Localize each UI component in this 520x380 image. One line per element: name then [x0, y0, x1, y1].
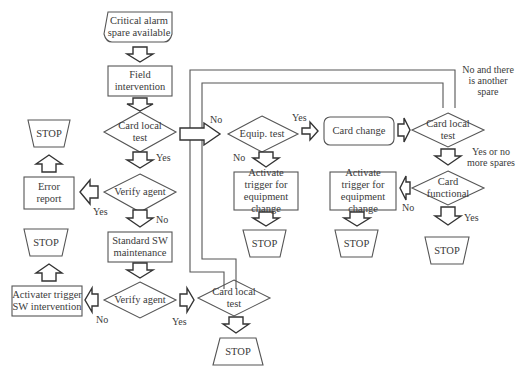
equip-test-label: Equip. test — [238, 120, 286, 148]
standard-sw-label: Standard SW maintenance — [108, 232, 172, 262]
arrow-functional-stop — [435, 207, 461, 225]
stop-bottom-label: STOP — [216, 338, 260, 365]
edge-label-verify2-yes: Yes — [172, 316, 187, 327]
edge-label-functional-no: No — [402, 202, 414, 213]
field-intervention-box-label: Field intervention — [108, 66, 172, 96]
arrow-stdsw-verify2 — [127, 263, 153, 278]
arrow-verify2-actsw — [85, 288, 98, 312]
stop-error-label: STOP — [28, 120, 70, 147]
arrow-error-stop — [36, 155, 62, 172]
arrow-verify1-error — [80, 180, 98, 204]
activater-sw-label: Activater trigger SW intervention — [12, 286, 82, 316]
edge-label-equip-yes: Yes — [292, 112, 307, 123]
edge-label-card1-no: No — [210, 114, 222, 125]
stop-functional-label: STOP — [425, 237, 469, 264]
card-test-2-label: Card local test — [420, 116, 476, 144]
edge-label-card2-loop: No and there is another spare — [458, 64, 518, 97]
arrow-verify1-stdsw — [127, 210, 153, 227]
edge-label-equip-no: No — [233, 152, 245, 163]
edge-label-verify1-no: No — [156, 214, 168, 225]
verify-agent-1-label: Verify agent — [112, 178, 168, 206]
arrow-card1-verify1 — [127, 152, 153, 168]
stop-equip-2-label: STOP — [335, 230, 378, 257]
arrow-card3-stop — [223, 317, 249, 333]
card-test-1-label: Card local test — [112, 118, 168, 146]
arrow-verify2-card3 — [180, 288, 194, 312]
start-terminal: Critical alarm spare available — [104, 12, 174, 42]
arrow-cardchange-card2 — [398, 118, 410, 142]
arrow-equip-act1 — [253, 152, 279, 167]
verify-agent-2-label: Verify agent — [112, 286, 168, 314]
arrow-field-card1 — [127, 98, 153, 111]
card-change-label: Card change — [324, 117, 394, 145]
card-functional-label: Card functional — [420, 174, 476, 202]
arrow-equip-cardchange — [302, 122, 318, 140]
edge-label-verify1-yes: Yes — [93, 206, 108, 217]
act-equip-2-label: Activate trigger for equipment change — [330, 172, 396, 210]
stop-equip-1-label: STOP — [243, 230, 286, 257]
arrow-functional-act2 — [400, 176, 410, 200]
act-equip-1-label: Activate trigger for equipment change — [234, 172, 298, 210]
error-report-label: Error report — [26, 177, 72, 209]
stop-sw-label: STOP — [24, 229, 68, 256]
loop-channel-outer — [190, 70, 455, 289]
arrow-card1-equip — [180, 123, 220, 145]
arrow-card2-functional — [435, 149, 461, 165]
arrow-actsw-stop — [36, 264, 62, 281]
edge-label-card1-yes: Yes — [156, 152, 171, 163]
arrow-start-field — [127, 47, 153, 62]
card-test-3-label: Card local test — [206, 284, 262, 312]
edge-label-card2-yes: Yes or no more spares — [466, 146, 516, 168]
edge-label-verify2-no: No — [96, 314, 108, 325]
edge-label-functional-yes: Yes — [464, 212, 479, 223]
